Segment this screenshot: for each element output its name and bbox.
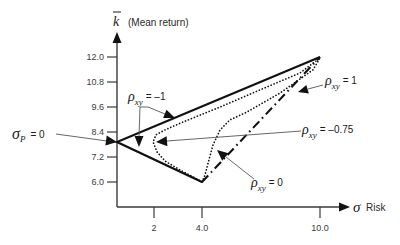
x-axis-arrow-icon <box>339 203 350 212</box>
leader-line <box>139 107 165 137</box>
annotation-rho-zero: ρxy= 0 <box>217 150 283 193</box>
annotation-label: ρxy= –1 <box>127 89 166 107</box>
x-axis-title: Risk <box>366 202 386 213</box>
series-line <box>153 58 320 182</box>
arrowhead-icon <box>135 136 144 147</box>
annotation-rho-minus-1: ρxy= –1 <box>127 89 175 147</box>
annotation-label: ρxy= 0 <box>250 175 283 193</box>
series-layer <box>117 57 320 182</box>
x-axis-symbol: σ <box>353 199 361 215</box>
series-line <box>202 57 320 182</box>
arrowhead-icon <box>298 85 309 94</box>
y-tick-label: 9.6 <box>91 102 104 112</box>
annotation-rho-plus-1: ρxy= 1 <box>298 73 357 94</box>
y-tick-label: 10.8 <box>86 77 104 87</box>
arrowhead-icon <box>156 136 167 146</box>
arrowhead-icon <box>217 150 229 161</box>
annotation-label: ρxy= –0.75 <box>301 122 354 140</box>
x-tick-label: 4.0 <box>196 223 209 233</box>
annotation-label: ρxy= 1 <box>324 73 357 91</box>
arrowhead-icon <box>163 110 175 118</box>
portfolio-risk-return-chart: 12.0 10.8 9.6 8.4 7.2 6.0 k (Mean return… <box>0 0 400 245</box>
y-axis-arrow-icon <box>113 32 122 43</box>
annotation-label: σP= 0 <box>12 125 45 144</box>
y-axis: 12.0 10.8 9.6 8.4 7.2 6.0 k (Mean return… <box>86 12 188 207</box>
y-axis-title: (Mean return) <box>128 17 189 28</box>
y-tick-label: 12.0 <box>86 52 104 62</box>
x-axis: 2 4.0 10.0 σ Risk <box>117 199 386 233</box>
leader-line <box>167 131 301 141</box>
arrowhead-icon <box>105 136 117 146</box>
y-tick-label: 8.4 <box>91 127 104 137</box>
leader-line <box>226 157 254 179</box>
leader-line <box>308 85 323 89</box>
y-tick-label: 7.2 <box>91 152 104 162</box>
y-axis-symbol: k <box>113 14 120 29</box>
y-tick-label: 6.0 <box>91 177 104 187</box>
x-tick-label: 2 <box>151 223 156 233</box>
x-tick-label: 10.0 <box>311 223 329 233</box>
